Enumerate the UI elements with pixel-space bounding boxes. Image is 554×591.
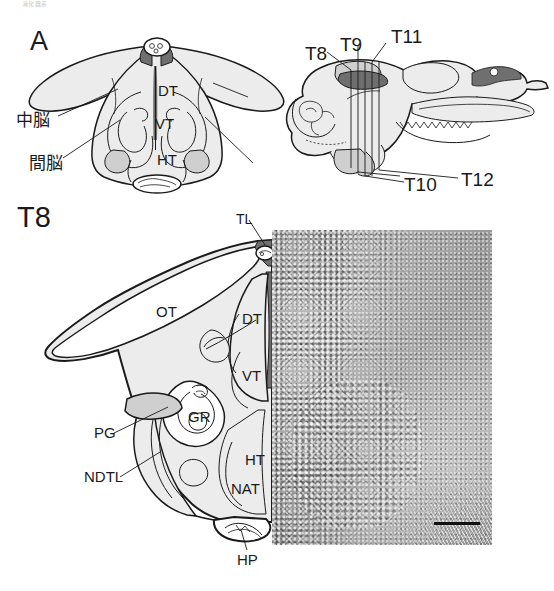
label-hp: HP [237, 552, 258, 567]
figure-root: 消化器系 .st{fill:none;stroke:#1a1a1a;} .w1{… [0, 0, 554, 591]
label-pg: PG [94, 425, 116, 440]
label-ot: OT [156, 304, 177, 319]
label-nat: NAT [231, 481, 260, 496]
label-ht-panel-a: HT [157, 152, 177, 167]
label-ht: HT [245, 452, 265, 467]
label-t10-plane: T10 [404, 175, 437, 194]
label-t12-plane: T12 [461, 170, 494, 189]
label-tl: TL [236, 212, 252, 226]
label-t11-plane: T11 [391, 27, 422, 46]
section-plane-lines [351, 78, 379, 176]
histology-micrograph [272, 230, 492, 545]
label-t9-plane: T9 [340, 35, 362, 54]
panel-t8-drawing [45, 220, 274, 550]
label-vt-panel-a: VT [155, 116, 174, 131]
label-dt-panel-a: DT [158, 83, 178, 98]
label-ndtl: NDTL [84, 469, 123, 484]
micrograph-vignette [272, 230, 492, 545]
panel-a-label: A [30, 28, 48, 55]
label-vt: VT [242, 368, 261, 383]
label-diencephalon-jp: 間脳 [29, 155, 63, 172]
scale-bar [434, 522, 480, 525]
section-t8-label: T8 [17, 203, 51, 232]
label-midbrain-jp: 中脳 [16, 112, 50, 129]
label-dt: DT [242, 311, 262, 326]
label-t8-plane: T8 [305, 44, 327, 63]
scan-header-text: 消化器系 [22, 0, 48, 8]
label-gr: GR [188, 409, 211, 424]
